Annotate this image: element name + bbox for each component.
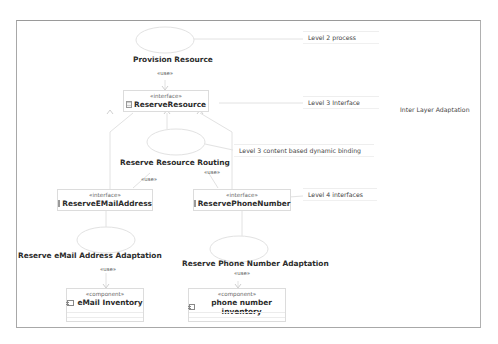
- interface-reserve-resource[interactable]: «interface» ReserveResource: [123, 90, 209, 112]
- usecase-reserve-email-adaptation[interactable]: Reserve eMail Address Adaptation: [18, 251, 162, 260]
- interface-reserve-email-address[interactable]: «interface» ReserveEMailAddress: [57, 189, 153, 211]
- interface-icon: [126, 101, 132, 108]
- component-stereotype: «component»: [67, 291, 143, 298]
- inter-layer-adaptation-label: Inter Layer Adaptation: [400, 106, 470, 113]
- use-label-email-adaptation: «use»: [100, 266, 116, 272]
- usecase-reserve-phone-adaptation[interactable]: Reserve Phone Number Adaptation: [182, 259, 329, 268]
- interface-name: ReserveResource: [134, 100, 206, 109]
- component-name: phone number inventory: [198, 298, 285, 316]
- component-icon: [189, 304, 195, 310]
- note-level2-process[interactable]: Level 2 process: [303, 31, 379, 44]
- interface-stereotype: «interface»: [194, 192, 290, 199]
- interface-reserve-phone-number[interactable]: «interface» ReservePhoneNumber: [193, 189, 291, 211]
- use-label-routing-phone: «use»: [204, 169, 220, 175]
- note-level3-binding[interactable]: Level 3 content based dynamic binding: [234, 144, 374, 157]
- usecase-reserve-resource-routing[interactable]: Reserve Resource Routing: [120, 158, 230, 167]
- component-divider: [189, 317, 285, 318]
- component-phone-number-inventory[interactable]: «component» phone number inventory: [188, 288, 286, 322]
- interface-icon: [58, 200, 60, 207]
- interface-name: ReservePhoneNumber: [198, 199, 291, 208]
- interface-name: ReserveEMailAddress: [62, 199, 152, 208]
- component-name: eMail Inventory: [77, 298, 142, 307]
- use-label-provision: «use»: [157, 70, 173, 76]
- component-divider: [189, 312, 285, 313]
- component-divider: [67, 317, 143, 318]
- use-label-routing-email: «use»: [141, 176, 157, 182]
- component-divider: [67, 312, 143, 313]
- note-level3-interface[interactable]: Level 3 Interface: [303, 96, 379, 109]
- component-stereotype: «component»: [189, 291, 285, 298]
- use-label-phone-adaptation: «use»: [234, 270, 250, 276]
- component-icon: [67, 300, 74, 306]
- interface-icon: [194, 200, 196, 207]
- component-email-inventory[interactable]: «component» eMail Inventory: [66, 288, 144, 322]
- interface-stereotype: «interface»: [58, 192, 152, 199]
- interface-stereotype: «interface»: [124, 93, 208, 100]
- usecase-provision-resource[interactable]: Provision Resource: [133, 55, 213, 64]
- note-level4-interfaces[interactable]: Level 4 interfaces: [303, 188, 377, 201]
